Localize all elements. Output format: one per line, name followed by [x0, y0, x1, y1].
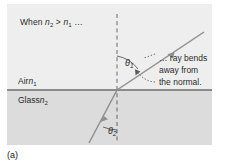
condition-ellipsis: … [72, 17, 83, 27]
callout-line-2: away from [159, 64, 207, 76]
theta2-label: θ2 [108, 127, 117, 138]
condition-label: When n2 > n1 … [20, 18, 83, 28]
theta1-sub: 1 [130, 62, 134, 69]
theta2-sub: 2 [113, 130, 117, 137]
callout-line-1: … ray bends [159, 52, 207, 64]
glass-name: Glass [18, 95, 40, 105]
air-index-sub: 1 [33, 80, 36, 87]
callout-leader-upper [144, 54, 155, 58]
part-label: (a) [7, 150, 18, 160]
glass-index-sub: 2 [44, 99, 47, 106]
air-name: Air [18, 76, 28, 86]
theta1-label: θ1 [125, 59, 134, 70]
refraction-figure: When n2 > n1 … Airn1 Glassn2 θ1 θ2 … ray… [0, 0, 226, 166]
air-label: Airn1 [18, 77, 37, 87]
diagram-panel: When n2 > n1 … Airn1 Glassn2 θ1 θ2 … ray… [7, 4, 212, 145]
glass-label: Glassn2 [18, 96, 48, 106]
condition-when: When [20, 17, 45, 27]
ray-bends-callout: … ray bends away from the normal. [159, 52, 207, 88]
callout-line-3: the normal. [159, 76, 207, 88]
condition-gt: > [53, 17, 63, 27]
